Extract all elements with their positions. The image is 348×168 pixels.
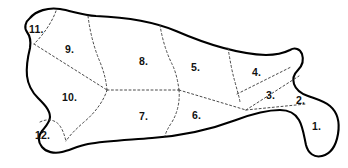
cut-label-6: 6. bbox=[192, 110, 201, 121]
cut-label-3: 3. bbox=[266, 90, 275, 101]
cut-label-12: 12. bbox=[35, 130, 50, 141]
cut-label-10: 10. bbox=[62, 92, 77, 103]
cut-label-4: 4. bbox=[252, 67, 261, 78]
carcass-outline bbox=[25, 8, 338, 156]
cuts-diagram-svg bbox=[0, 0, 348, 168]
meat-cuts-diagram: 1. 2. 3. 4. 5. 6. 7. 8. 9. 10. 11. 12. bbox=[0, 0, 348, 168]
cut-label-7: 7. bbox=[139, 111, 148, 122]
cut-label-1: 1. bbox=[312, 121, 321, 132]
carcass-outline-group bbox=[25, 8, 338, 156]
cut-label-5: 5. bbox=[191, 62, 200, 73]
cut-label-8: 8. bbox=[139, 56, 148, 67]
cut-label-9: 9. bbox=[65, 44, 74, 55]
cut-label-2: 2. bbox=[296, 95, 305, 106]
cut-label-11: 11. bbox=[29, 24, 44, 35]
